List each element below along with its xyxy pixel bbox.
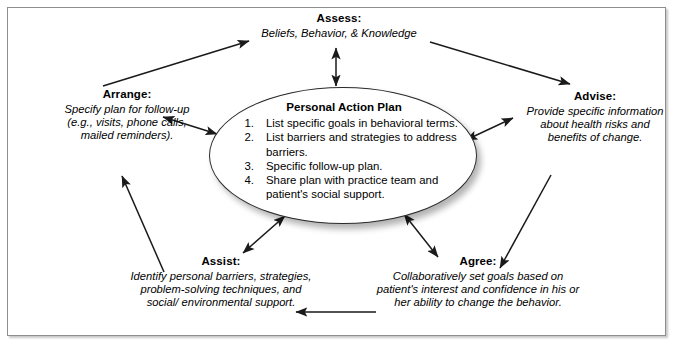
list-item: 2. List barriers and strategies to addre… [238,130,460,159]
node-assess-body: Beliefs, Behavior, & Knowledge [222,27,456,40]
node-arrange: Arrange: Specify plan for follow-up (e.g… [52,88,202,142]
diagram-canvas: Personal Action Plan 1. List specific go… [0,0,677,347]
node-advise-heading: Advise: [522,90,668,104]
list-item: 3. Specific follow-up plan. [238,159,460,173]
list-item-number: 2. [238,130,254,144]
node-assist-body: Identify personal barriers, strategies, … [126,270,316,310]
list-item-number: 1. [238,116,254,130]
node-agree-body: Collaboratively set goals based on patie… [372,270,584,310]
oval-title: Personal Action Plan [210,100,478,113]
node-assist-heading: Assist: [126,255,316,269]
node-agree: Agree: Collaboratively set goals based o… [372,255,584,309]
list-item-text: List barriers and strategies to address … [266,131,457,157]
arrow-agree-to-center [404,214,438,257]
personal-action-plan-oval: Personal Action Plan 1. List specific go… [209,87,477,224]
list-item-text: Specific follow-up plan. [266,160,383,172]
list-item-number: 4. [238,173,254,187]
arrow-arrange-to-assess [103,41,249,86]
node-agree-heading: Agree: [372,255,584,269]
arrow-advise-to-center [466,118,513,140]
list-item-number: 3. [238,159,254,173]
node-assist: Assist: Identify personal barriers, stra… [126,255,316,309]
list-item-text: List specific goals in behavioral terms. [266,117,458,129]
node-advise-body: Provide specific information about healt… [522,105,668,145]
arrow-assist-to-center [243,216,285,253]
list-item: 1. List specific goals in behavioral ter… [238,116,460,130]
node-arrange-body: Specify plan for follow-up (e.g., visits… [52,103,202,143]
arrow-assess-to-advise [430,42,570,84]
node-arrange-heading: Arrange: [52,88,202,102]
node-assess-heading: Assess: [222,12,456,26]
node-assess: Assess: Beliefs, Behavior, & Knowledge [222,12,456,40]
list-item: 4. Share plan with practice team and pat… [238,173,460,202]
action-plan-list: 1. List specific goals in behavioral ter… [238,116,460,202]
node-advise: Advise: Provide specific information abo… [522,90,668,144]
list-item-text: Share plan with practice team and patien… [266,174,438,200]
